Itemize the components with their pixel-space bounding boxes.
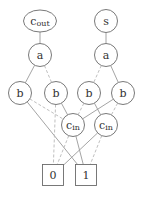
node-label: b [52,87,59,100]
edge-a1-b1-solid [25,65,34,83]
edge-cin2-t1-dashed [90,136,102,165]
node-cin1: cin [62,114,85,137]
edge-b3-cin1-dashed [78,103,84,114]
node-b3: b [78,82,101,105]
node-label: s [103,15,109,28]
node-label: 1 [83,169,90,182]
terminal-node-t0: 0 [43,165,64,186]
node-label: a [37,49,44,62]
node-label: b [119,87,126,100]
node-s: s [95,10,118,33]
node-a2: a [95,44,118,67]
edge-cin2-t0-solid [64,133,98,165]
node-cout: cout [24,10,57,32]
node-b1: b [9,82,32,105]
node-b2: b [45,82,68,105]
bdd-diagram: coutsaabbbbcincin01 [0,0,142,197]
node-label: b [16,87,23,100]
edge-a2-b4-solid [111,65,119,82]
node-b4: b [112,82,135,105]
edge-b4-cin2-dashed [111,103,117,115]
edge-a1-b2-dashed [44,66,51,83]
edge-b2-cin1-solid [61,103,67,115]
node-label: a [103,49,110,62]
terminal-node-t1: 1 [76,165,97,186]
edge-cin1-t0-dashed [57,136,69,165]
node-label: b [85,87,92,100]
edge-a2-b3-dashed [94,65,102,82]
node-label: 0 [50,169,57,182]
node-cin2: cin [95,114,118,137]
nodes-layer: coutsaabbbbcincin01 [9,10,135,186]
node-a1: a [29,44,52,67]
